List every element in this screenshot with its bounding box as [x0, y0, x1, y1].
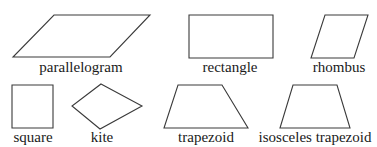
- rhombus-shape: [311, 15, 368, 58]
- isosceles-trapezoid-shape: [280, 85, 350, 128]
- isosceles-trapezoid-label: isosceles trapezoid: [259, 130, 372, 145]
- kite-shape: [72, 84, 142, 129]
- rectangle-shape: [189, 15, 273, 58]
- square-shape: [12, 85, 53, 128]
- rectangle-label: rectangle: [203, 60, 258, 75]
- kite-label: kite: [91, 130, 114, 145]
- quadrilaterals-diagram: parallelogram rectangle rhombus square k…: [0, 0, 377, 147]
- parallelogram-label: parallelogram: [39, 60, 122, 75]
- trapezoid-shape: [164, 85, 248, 128]
- parallelogram-shape: [13, 15, 150, 57]
- square-label: square: [13, 130, 52, 145]
- rhombus-label: rhombus: [313, 60, 366, 75]
- trapezoid-label: trapezoid: [178, 130, 234, 145]
